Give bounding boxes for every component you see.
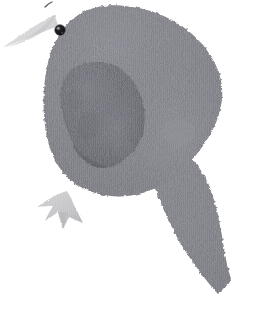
artwork-canvas: Bird A gray torn-paper collage of a smal… (0, 0, 269, 319)
bird-illustration (0, 0, 269, 319)
